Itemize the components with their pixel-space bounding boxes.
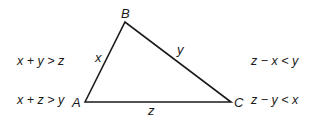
triangle-inequality-diagram: B A C x y z x + y > z x + z > y y + z > … <box>0 0 312 116</box>
sum-inequalities: x + y > z x + z > y y + z > x <box>17 29 64 116</box>
side-label-z: z <box>147 103 155 116</box>
inequality-line: x + z > y <box>17 94 64 107</box>
inequality-line: z − x < y <box>251 55 298 68</box>
side-label-x: x <box>94 50 102 65</box>
triangle-abc <box>85 22 231 102</box>
inequality-line: z − y < x <box>251 94 298 107</box>
side-label-y: y <box>176 42 185 57</box>
difference-inequalities: z − x < y z − y < x y − x < z <box>251 29 298 116</box>
vertex-label-c: C <box>234 95 244 110</box>
vertex-label-b: B <box>121 6 130 21</box>
vertex-label-a: A <box>71 95 81 110</box>
inequality-line: x + y > z <box>17 55 64 68</box>
